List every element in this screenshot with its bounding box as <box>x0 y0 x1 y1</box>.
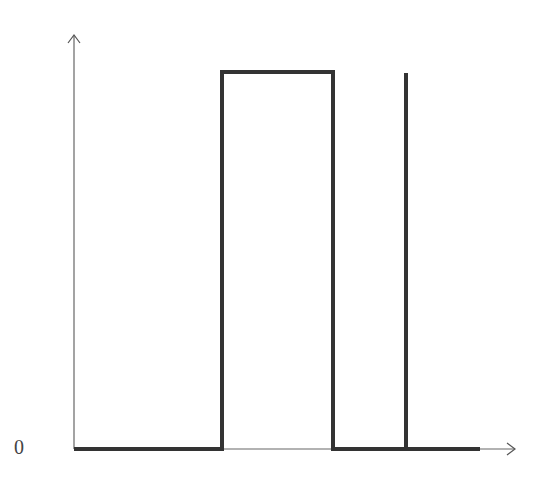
zero-label: 0 <box>14 436 24 459</box>
waveform-diagram <box>0 0 544 485</box>
signal-trace <box>74 72 480 449</box>
axes <box>68 35 515 455</box>
